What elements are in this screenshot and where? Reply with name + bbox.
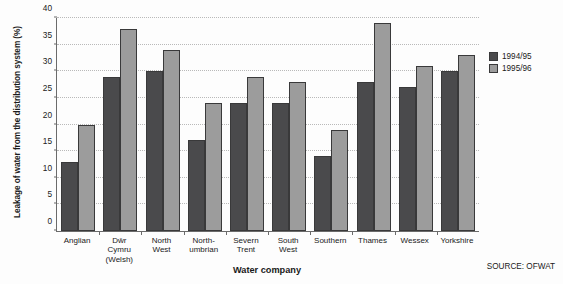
- x-tick-label: Wessex: [394, 236, 436, 264]
- bar-group: [437, 18, 479, 231]
- y-tick-label: 40: [43, 3, 52, 13]
- x-tick-mark: [310, 231, 311, 235]
- bar[interactable]: [205, 103, 222, 231]
- y-tick-label: 15: [43, 136, 52, 146]
- x-axis-title: Water company: [56, 265, 478, 275]
- x-tick-mark: [352, 231, 353, 235]
- x-tick-label: Yorkshire: [436, 236, 478, 264]
- bar[interactable]: [289, 82, 306, 231]
- x-tick-label: Thames: [351, 236, 393, 264]
- x-tick-mark: [268, 231, 269, 235]
- y-tick-label: 0: [47, 216, 52, 226]
- legend-item[interactable]: 1994/95: [489, 52, 532, 61]
- bar[interactable]: [357, 82, 374, 231]
- leakage-bar-chart: Leakage of water from the distribution s…: [0, 0, 563, 284]
- bar[interactable]: [188, 140, 205, 231]
- source-note: SOURCE: OFWAT: [487, 262, 555, 271]
- bar-group: [310, 18, 352, 231]
- plot-area: 0510152025303540: [56, 18, 479, 232]
- bar[interactable]: [416, 66, 433, 231]
- y-tick-label: 30: [43, 56, 52, 66]
- x-tick-mark: [99, 231, 100, 235]
- x-tick-mark: [437, 231, 438, 235]
- bar[interactable]: [458, 55, 475, 231]
- y-tick-label: 25: [43, 83, 52, 93]
- x-tick-label: Anglian: [56, 236, 98, 264]
- x-tick-mark: [184, 231, 185, 235]
- legend-swatch: [489, 64, 498, 73]
- x-tick-label: North West: [140, 236, 182, 264]
- x-tick-label: North- umbrian: [183, 236, 225, 264]
- x-tick-mark: [141, 231, 142, 235]
- bar-group: [226, 18, 268, 231]
- bar-group: [57, 18, 99, 231]
- bar[interactable]: [120, 29, 137, 231]
- x-tick-label: Dŵr Cymru (Welsh): [98, 236, 140, 264]
- y-tick-label: 35: [43, 30, 52, 40]
- legend-swatch: [489, 52, 498, 61]
- x-tick-label: Southern: [309, 236, 351, 264]
- bar[interactable]: [103, 77, 120, 231]
- bar-group: [352, 18, 394, 231]
- y-tick-label: 10: [43, 163, 52, 173]
- x-tick-mark: [226, 231, 227, 235]
- bar-group: [184, 18, 226, 231]
- bars-layer: [57, 18, 479, 231]
- bar[interactable]: [331, 130, 348, 231]
- legend-label: 1994/95: [502, 52, 532, 61]
- bar[interactable]: [314, 156, 331, 231]
- bar[interactable]: [61, 162, 78, 231]
- bar-group: [395, 18, 437, 231]
- y-tick-label: 20: [43, 110, 52, 120]
- legend-label: 1995/96: [502, 64, 532, 73]
- x-axis-tick-labels: AnglianDŵr Cymru (Welsh)North WestNorth-…: [56, 236, 478, 264]
- y-axis-title: Leakage of water from the distribution s…: [8, 6, 26, 238]
- y-tick-label: 5: [47, 189, 52, 199]
- legend-item[interactable]: 1995/96: [489, 64, 532, 73]
- bar-group: [268, 18, 310, 231]
- bar[interactable]: [78, 125, 95, 232]
- bar[interactable]: [146, 71, 163, 231]
- x-tick-label: Severn Trent: [225, 236, 267, 264]
- bar-group: [141, 18, 183, 231]
- bar[interactable]: [272, 103, 289, 231]
- bar[interactable]: [247, 77, 264, 231]
- bar[interactable]: [163, 50, 180, 231]
- bar[interactable]: [374, 23, 391, 231]
- bar[interactable]: [399, 87, 416, 231]
- x-tick-mark: [395, 231, 396, 235]
- bar[interactable]: [230, 103, 247, 231]
- bar-group: [99, 18, 141, 231]
- bar[interactable]: [441, 71, 458, 231]
- legend: 1994/951995/96: [489, 52, 532, 73]
- x-tick-label: South West: [267, 236, 309, 264]
